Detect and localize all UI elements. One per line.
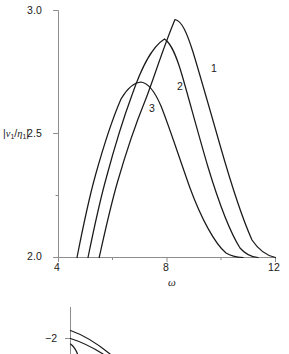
lower-curve-2 — [71, 339, 104, 354]
lower-y-tick-label: −2 — [45, 333, 57, 344]
figure-container: 3.0 2.5 2.0 4 8 12 ω |v1/η1| 1 2 3 −2 — [0, 0, 289, 354]
lower-curve-3 — [71, 344, 78, 354]
lower-chart-canvas — [0, 0, 289, 354]
